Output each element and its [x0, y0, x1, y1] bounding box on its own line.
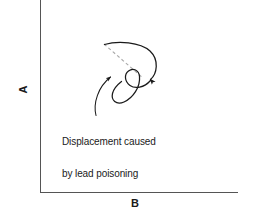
figure-container: A B Displacement caused by lead poisonin… [0, 0, 253, 215]
trajectory-curve-loop [112, 69, 150, 103]
annotation-caption-line-1: Displacement caused [62, 137, 156, 148]
trajectory-curve-upper [105, 42, 157, 79]
displacement-reference-line [104, 44, 143, 78]
annotation-leader-line [95, 77, 110, 116]
y-axis-label: A [18, 86, 29, 94]
annotation-caption-line-2: by lead poisoning [62, 169, 156, 180]
annotation-caption: Displacement caused by lead poisoning [62, 116, 156, 200]
